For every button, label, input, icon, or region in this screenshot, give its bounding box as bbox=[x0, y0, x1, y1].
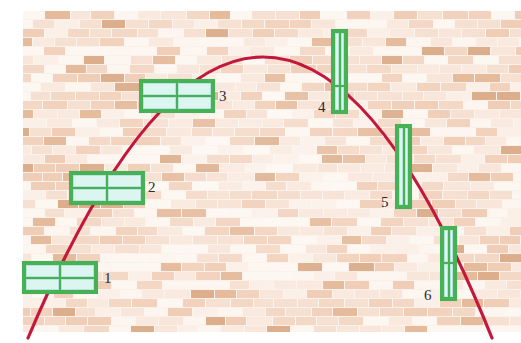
window-panes bbox=[143, 83, 211, 109]
window-pane bbox=[108, 175, 141, 187]
window-pane bbox=[61, 279, 94, 291]
window-label-6: 6 bbox=[424, 288, 432, 303]
window-pane bbox=[26, 265, 59, 277]
window-pane bbox=[108, 189, 141, 201]
window-pane bbox=[450, 230, 454, 262]
window-3 bbox=[139, 79, 215, 113]
window-pane bbox=[73, 175, 106, 187]
window-pane bbox=[444, 264, 448, 297]
window-panes bbox=[26, 265, 94, 290]
window-pane bbox=[61, 265, 94, 277]
window-panes bbox=[73, 175, 141, 201]
window-2 bbox=[69, 171, 145, 205]
window-pane bbox=[335, 33, 339, 85]
window-label-2: 2 bbox=[148, 180, 156, 195]
window-label-1: 1 bbox=[104, 271, 112, 286]
window-5 bbox=[395, 124, 412, 209]
window-pane bbox=[341, 33, 345, 85]
window-pane bbox=[178, 97, 211, 109]
window-pane bbox=[73, 189, 106, 201]
window-pane bbox=[399, 128, 403, 205]
window-panes bbox=[399, 128, 408, 205]
window-panes bbox=[335, 33, 344, 110]
window-pane bbox=[143, 97, 176, 109]
figure-canvas: 123456 bbox=[0, 0, 521, 343]
window-pane bbox=[178, 83, 211, 95]
window-label-3: 3 bbox=[219, 89, 227, 104]
window-pane bbox=[143, 83, 176, 95]
window-1 bbox=[22, 261, 98, 294]
window-6 bbox=[440, 226, 457, 301]
window-pane bbox=[405, 128, 409, 205]
window-label-5: 5 bbox=[381, 195, 389, 210]
window-label-4: 4 bbox=[318, 100, 326, 115]
window-pane bbox=[335, 87, 339, 110]
window-pane bbox=[341, 87, 345, 110]
window-pane bbox=[26, 279, 59, 291]
window-pane bbox=[450, 264, 454, 297]
window-pane bbox=[444, 230, 448, 262]
window-4 bbox=[331, 29, 348, 114]
window-panes bbox=[444, 230, 453, 297]
